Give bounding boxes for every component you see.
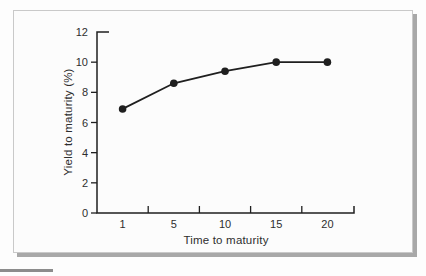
cropped-figure-tab-edge [0,269,53,272]
data-point-marker [324,58,332,66]
data-point-marker [119,105,127,113]
x-tick-label: 10 [219,218,231,230]
x-tick-label: 5 [171,218,177,230]
y-axis-title: Yield to maturity (%) [62,68,74,175]
x-tick-label: 20 [321,218,333,230]
y-tick-label: 10 [76,56,88,68]
y-tick-label: 0 [82,207,88,219]
y-tick-label: 6 [82,117,88,129]
axis-lines [97,32,354,213]
y-tick-label: 12 [76,26,88,38]
x-tick-label: 1 [120,218,126,230]
y-tick-label: 8 [82,86,88,98]
data-point-marker [272,58,280,66]
scanned-figure-page: 02468101215101520 Yield to maturity (%) … [0,0,426,276]
x-axis-title: Time to maturity [183,234,268,246]
x-tick-label: 15 [270,218,282,230]
y-tick-label: 2 [82,177,88,189]
data-point-marker [170,79,178,87]
y-tick-label: 4 [82,147,88,159]
data-point-marker [221,67,229,75]
